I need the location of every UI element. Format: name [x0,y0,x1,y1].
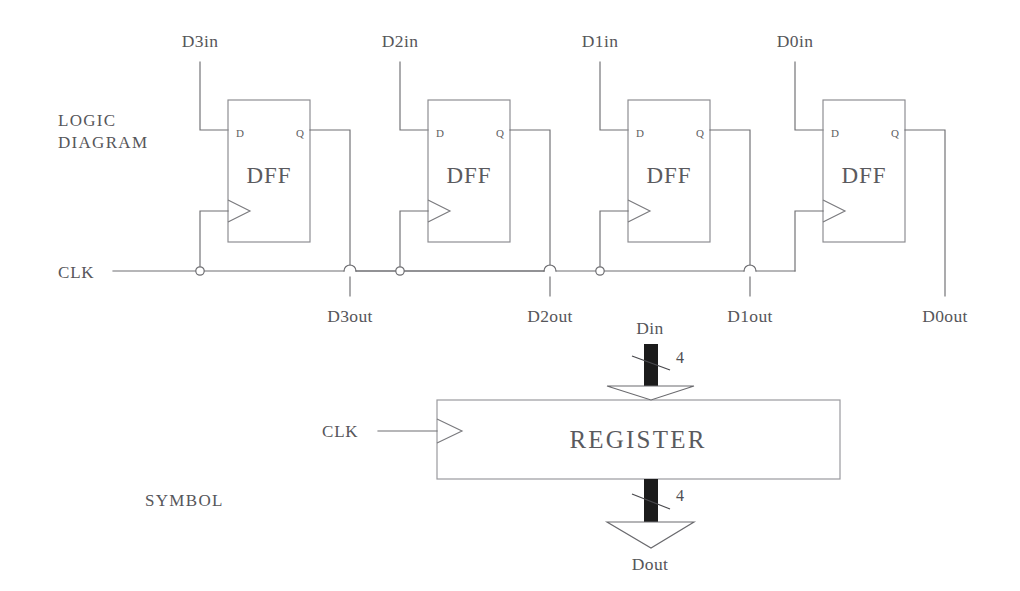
signal-label-d0in: D0in [777,31,814,51]
register-block-label: REGISTER [569,426,706,453]
wire-q0-d0out [905,130,945,296]
signal-label-d3out: D3out [327,306,373,326]
bus-in-arrowhead [607,386,694,400]
wire-clk-to-dff3 [200,211,228,271]
dff-name-1: DFF [646,163,691,188]
dff-name-3: DFF [246,163,291,188]
section-label-symbol: SYMBOL [145,491,224,510]
signal-label-d1in: D1in [582,31,619,51]
signal-label-d3in: D3in [182,31,219,51]
dff-clock-triangle-0 [823,200,845,222]
dff-name-2: DFF [446,163,491,188]
dff-pin-q-2: Q [496,127,504,139]
signal-label-din: Din [636,318,663,338]
wire-clk-to-dff0 [795,211,823,271]
section-label-diagram: DIAGRAM [58,133,148,152]
wire-q3-upper [310,130,350,265]
bus-out-arrowhead [607,522,694,548]
clk-junction-dot-1 [596,267,604,275]
wire-clk-to-dff1 [600,211,628,271]
dff-pin-d-1: D [636,127,644,139]
dff-pin-d-0: D [831,127,839,139]
bus-out-bar [644,479,658,522]
wire-d3in [200,62,228,130]
wire-q1-upper [710,130,750,265]
signal-label-d2in: D2in [382,31,419,51]
bus-out-width-label: 4 [676,487,684,504]
clk-label-logic: CLK [58,263,94,282]
clk-hop-d2out [544,265,556,271]
dff-name-0: DFF [841,163,886,188]
signal-label-d2out: D2out [527,306,573,326]
wire-d0in [795,62,823,130]
clk-junction-dot-2 [396,267,404,275]
signal-label-d0out: D0out [922,306,968,326]
dff-clock-triangle-1 [628,200,650,222]
section-label-logic: LOGIC [58,111,116,130]
signal-label-d1out: D1out [727,306,773,326]
dff-pin-d-2: D [436,127,444,139]
dff-pin-q-3: Q [296,127,304,139]
wire-d1in [600,62,628,130]
dff-clock-triangle-2 [428,200,450,222]
figure-canvas: LOGIC DIAGRAM SYMBOL CLK D Q DFF [0,0,1020,591]
clk-hop-d1out [744,265,756,271]
dff-pin-d-3: D [236,127,244,139]
clk-junction-dot-3 [196,267,204,275]
bus-in-width-label: 4 [676,349,684,366]
clk-label-symbol: CLK [322,422,358,441]
clk-hop-d3out [344,265,356,271]
wire-clk-to-dff2 [400,211,428,271]
signal-label-dout: Dout [632,554,669,574]
logic-diagram-svg: LOGIC DIAGRAM SYMBOL CLK D Q DFF [0,0,1020,591]
wire-q2-upper [510,130,550,265]
dff-pin-q-1: Q [696,127,704,139]
dff-pin-q-0: Q [891,127,899,139]
dff-clock-triangle-3 [228,200,250,222]
wire-d2in [400,62,428,130]
